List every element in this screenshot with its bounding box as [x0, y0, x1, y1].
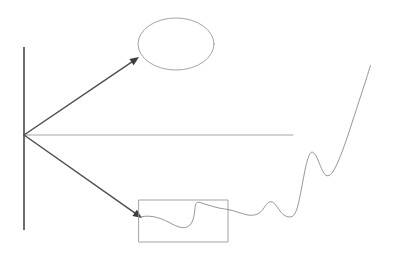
- canvas-background: [0, 0, 393, 262]
- diagram-svg: [0, 0, 393, 262]
- diagram-canvas: [0, 0, 393, 262]
